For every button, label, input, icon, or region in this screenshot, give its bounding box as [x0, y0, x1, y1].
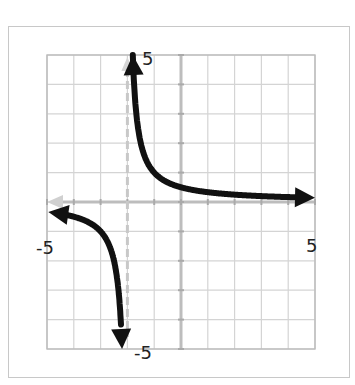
y-min-label: -5 [134, 342, 152, 363]
x-min-label: -5 [36, 237, 54, 258]
x-max-label: 5 [306, 235, 317, 256]
hyperbola-graph: 5 -5 -5 5 [0, 0, 355, 385]
axes [47, 55, 315, 349]
y-max-label: 5 [142, 48, 153, 69]
